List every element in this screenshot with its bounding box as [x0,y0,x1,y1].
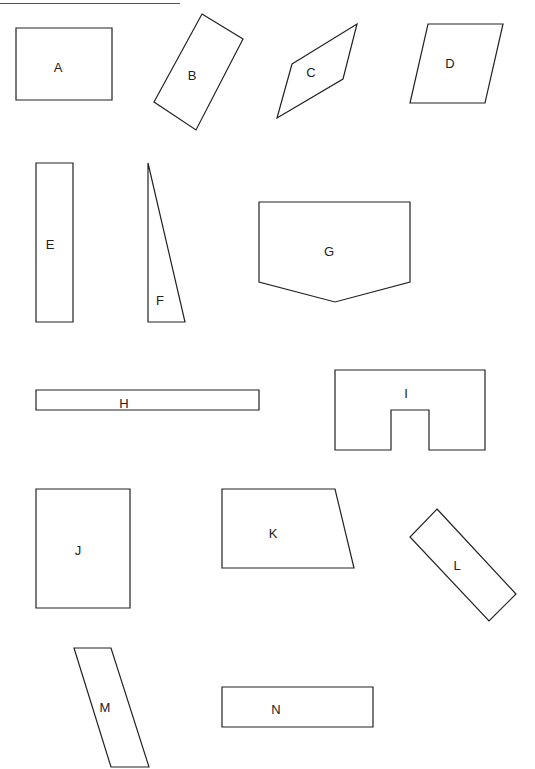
shape-b-label: B [188,68,197,83]
shape-j: J [36,489,130,608]
shape-a-label: A [54,60,63,75]
shape-l: L [410,509,516,621]
shape-f-label: F [156,293,164,308]
shapes-diagram: A B C D E F G H I J K L M N [0,0,535,769]
shape-e: E [36,163,73,322]
shape-m-outline [74,648,149,767]
shape-g-label: G [324,244,334,259]
shape-g-outline [259,202,410,302]
shape-f-outline [148,163,185,322]
shape-m-label: M [100,700,111,715]
shape-g: G [259,202,410,302]
shape-j-label: J [75,543,82,558]
shape-h-outline [36,390,259,410]
shape-e-label: E [46,237,55,252]
shape-i-outline [335,370,485,450]
shape-n-outline [222,687,373,727]
shape-a: A [16,28,112,100]
shape-d: D [410,24,503,103]
shape-n-label: N [271,702,280,717]
shape-d-outline [410,24,503,103]
shape-d-label: D [445,56,454,71]
shape-f: F [148,163,185,322]
shape-h: H [36,390,259,411]
shape-k: K [222,489,354,568]
shape-m: M [74,648,149,767]
shape-h-label: H [119,396,128,411]
shape-n: N [222,687,373,727]
shape-e-outline [36,163,73,322]
shape-j-outline [36,489,130,608]
shape-c-outline [277,24,357,118]
shape-l-outline [410,509,516,621]
shape-c-label: C [306,65,315,80]
shape-k-label: K [269,526,278,541]
shape-i-label: I [404,386,408,401]
shape-l-label: L [453,558,460,573]
shape-a-outline [16,28,112,100]
shape-c: C [277,24,357,118]
shape-k-outline [222,489,354,568]
shape-b-outline [154,14,243,130]
shape-i: I [335,370,485,450]
shape-b: B [154,14,243,130]
